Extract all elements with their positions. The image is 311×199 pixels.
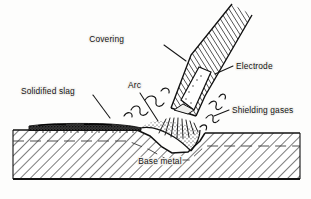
- label-electrode: Electrode: [236, 61, 273, 71]
- diagram-canvas: Covering Electrode Solidified slag Arc S…: [0, 0, 311, 199]
- leader-solidified-slag: [93, 95, 110, 118]
- gas-squiggle-r1: [206, 115, 219, 123]
- gas-squiggle-l2: [131, 106, 148, 115]
- gas-squiggle-l4: [161, 88, 169, 93]
- gas-squiggle-r4: [219, 94, 225, 99]
- label-covering: Covering: [89, 34, 124, 44]
- welding-diagram: Covering Electrode Solidified slag Arc S…: [0, 0, 311, 199]
- gas-squiggle-l3: [124, 113, 132, 117]
- gas-squiggle-r3: [200, 125, 207, 130]
- leader-shielding-gases: [214, 110, 229, 116]
- base-metal-hatch-fill: [13, 130, 300, 179]
- label-base-metal: Base metal: [138, 156, 181, 166]
- gas-squiggle-r2: [209, 101, 222, 109]
- label-shielding-gases: Shielding gases: [232, 105, 293, 115]
- leader-covering: [164, 45, 186, 61]
- electrode-group: [171, 4, 252, 116]
- label-solidified-slag: Solidified slag: [21, 86, 75, 96]
- base-metal-body: [13, 130, 300, 179]
- label-arc: Arc: [128, 80, 141, 90]
